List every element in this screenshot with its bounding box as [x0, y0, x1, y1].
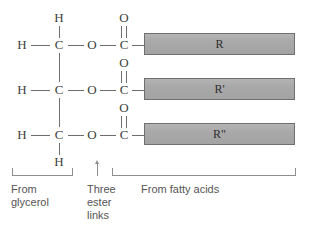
hydrogen-left-row-1: H: [15, 38, 29, 52]
double-bond-right-2: [126, 71, 127, 83]
bond-c2-c3: [59, 98, 60, 127]
carbonyl-carbon-1: C: [117, 38, 131, 52]
double-bond-right-1: [126, 26, 127, 38]
hydrogen-left-row-2: H: [15, 83, 29, 97]
chain-label-r-prime: R': [145, 82, 294, 97]
hydrogen-bottom-row-3: H: [52, 155, 66, 169]
bond-c1-o: [68, 45, 84, 46]
caption-from-fatty-acids: From fatty acids: [141, 183, 291, 196]
triglyceride-diagram: H H C O C O R H C O C O R' H C O C O R": [0, 0, 316, 229]
bond-h-c2: [31, 90, 50, 91]
carbonyl-carbon-3: C: [117, 128, 131, 142]
glycerol-bracket-tick-left: [12, 168, 13, 176]
ester-oxygen-3: O: [85, 128, 99, 142]
ester-oxygen-1: O: [85, 38, 99, 52]
fatty-acids-bracket-line: [112, 175, 295, 176]
ester-oxygen-2: O: [85, 83, 99, 97]
fatty-acid-chain-2: R': [144, 78, 295, 100]
carbonyl-carbon-2: C: [117, 83, 131, 97]
double-bond-right-3: [126, 116, 127, 128]
carbonyl-oxygen-2: O: [117, 56, 131, 70]
glycerol-bracket-tick-right: [72, 168, 73, 176]
caption-from-glycerol: From glycerol: [11, 183, 73, 209]
bond-h-c1: [31, 45, 50, 46]
bond-c3-o: [68, 135, 84, 136]
ester-arrow-shaft: [97, 164, 98, 176]
backbone-carbon-3: C: [52, 128, 66, 142]
double-bond-left-2: [121, 71, 122, 83]
bond-h-c3: [31, 135, 50, 136]
glycerol-bracket-line: [12, 175, 72, 176]
carbonyl-oxygen-1: O: [117, 11, 131, 25]
carbonyl-oxygen-3: O: [117, 101, 131, 115]
double-bond-left-1: [121, 26, 122, 38]
caption-three-ester-links: Three ester links: [87, 183, 137, 222]
bond-carbonyl-chain-2: [132, 90, 144, 91]
backbone-carbon-2: C: [52, 83, 66, 97]
bond-o-carbonyl-1: [100, 45, 116, 46]
bond-carbonyl-chain-3: [132, 135, 144, 136]
fatty-acids-bracket-tick-left: [112, 168, 113, 176]
bond-c1-c2: [59, 53, 60, 82]
fatty-acid-chain-3: R": [144, 123, 295, 145]
backbone-carbon-1: C: [52, 38, 66, 52]
bond-o-carbonyl-2: [100, 90, 116, 91]
double-bond-left-3: [121, 116, 122, 128]
bond-carbonyl-chain-1: [132, 45, 144, 46]
hydrogen-top-row-1: H: [52, 11, 66, 25]
fatty-acid-chain-1: R: [144, 33, 295, 55]
bond-o-carbonyl-3: [100, 135, 116, 136]
chain-label-r-double-prime: R": [145, 127, 294, 142]
fatty-acids-bracket-tick-right: [295, 168, 296, 176]
hydrogen-left-row-3: H: [15, 128, 29, 142]
bond-c2-o: [68, 90, 84, 91]
chain-label-r: R: [145, 37, 294, 52]
